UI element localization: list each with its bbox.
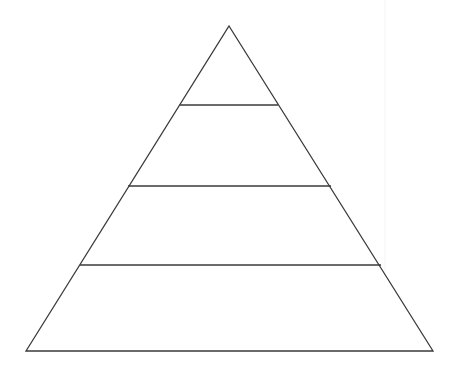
- pyramid-diagram: [0, 0, 455, 368]
- pyramid-level-2[interactable]: [128, 105, 331, 186]
- pyramid-level-4-base[interactable]: [26, 265, 433, 351]
- diagram-canvas: [0, 0, 455, 368]
- pyramid-level-1-apex[interactable]: [180, 26, 278, 105]
- pyramid-level-3[interactable]: [80, 186, 381, 265]
